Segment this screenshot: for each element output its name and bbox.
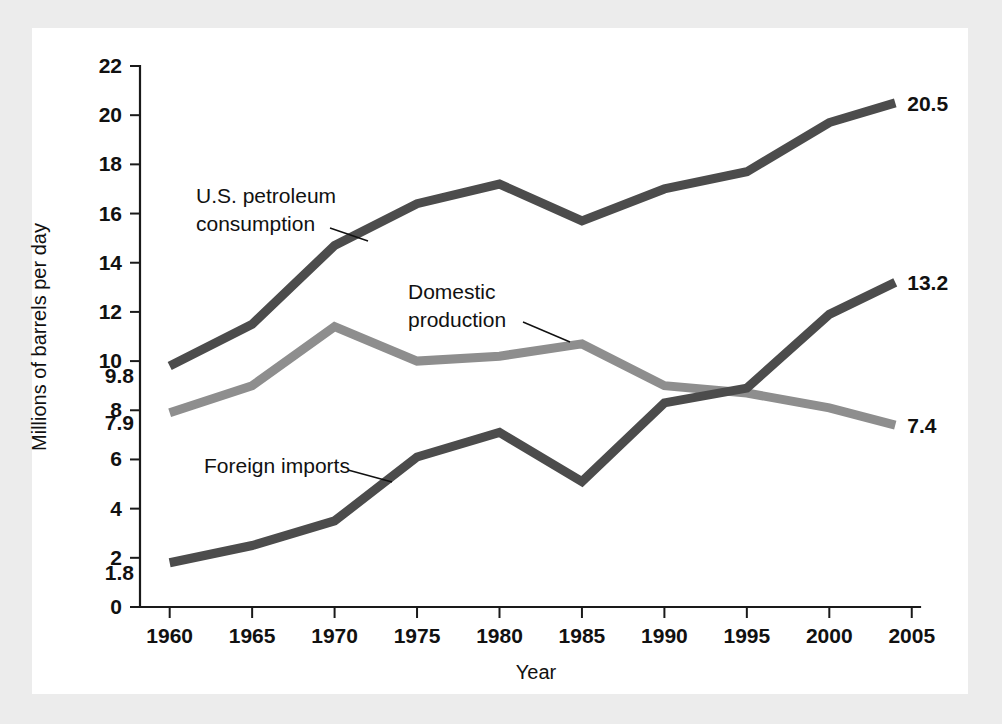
annotation-consumption-line2: consumption: [196, 212, 315, 235]
x-tick-label: 1990: [641, 624, 688, 647]
y-tick-label: 0: [110, 595, 122, 618]
x-axis-title: Year: [516, 661, 557, 683]
x-tick-label: 1965: [229, 624, 276, 647]
annotation-production-line2: production: [408, 308, 506, 331]
annotation-production-leader: [523, 322, 570, 342]
x-tick-label: 2005: [888, 624, 935, 647]
x-tick-label: 1980: [476, 624, 523, 647]
annotation-imports: Foreign imports: [204, 454, 392, 482]
start-value-label-foreign-imports: 1.8: [105, 561, 135, 584]
end-value-label-domestic-production: 7.4: [907, 414, 937, 437]
y-tick-label: 4: [110, 497, 122, 520]
x-tick-label: 1960: [146, 624, 193, 647]
x-tick-group: 1960196519701975198019851990199520002005: [146, 607, 935, 647]
x-tick-label: 1995: [723, 624, 770, 647]
annotation-consumption: U.S. petroleum consumption: [196, 184, 368, 241]
series-line-foreign-imports: [170, 282, 896, 562]
y-tick-label: 6: [110, 447, 122, 470]
y-tick-label: 18: [99, 152, 123, 175]
annotation-consumption-line1: U.S. petroleum: [196, 184, 336, 207]
annotation-imports-line1: Foreign imports: [204, 454, 350, 477]
start-value-label-u-s-petroleum-consumption: 9.8: [105, 364, 135, 387]
x-tick-label: 1970: [311, 624, 358, 647]
line-chart: 0246810121416182022 19601965197019751980…: [0, 0, 1002, 724]
y-tick-group: 0246810121416182022: [99, 54, 140, 618]
start-value-label-domestic-production: 7.9: [105, 411, 134, 434]
x-tick-label: 1985: [559, 624, 606, 647]
annotation-production-line1: Domestic: [408, 280, 496, 303]
y-tick-label: 22: [99, 54, 122, 77]
y-tick-label: 12: [99, 300, 122, 323]
y-tick-label: 16: [99, 202, 122, 225]
x-tick-label: 1975: [394, 624, 441, 647]
series-group: [170, 103, 896, 563]
series-line-domestic-production: [170, 327, 896, 425]
annotation-production: Domestic production: [408, 280, 570, 342]
end-value-label-u-s-petroleum-consumption: 20.5: [907, 92, 948, 115]
figure-root: 0246810121416182022 19601965197019751980…: [0, 0, 1002, 724]
y-axis-title: Millions of barrels per day: [28, 223, 50, 451]
end-value-label-foreign-imports: 13.2: [907, 271, 948, 294]
y-tick-label: 20: [99, 103, 122, 126]
x-tick-label: 2000: [806, 624, 853, 647]
y-tick-label: 14: [99, 251, 123, 274]
